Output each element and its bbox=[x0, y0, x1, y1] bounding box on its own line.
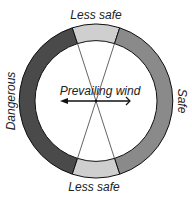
label-dangerous: Dangerous bbox=[4, 72, 18, 131]
label-less-safe-bottom: Less safe bbox=[68, 180, 120, 194]
segment-less-safe-top bbox=[72, 24, 119, 44]
label-safe: Safe bbox=[175, 89, 189, 114]
segment-less-safe-bottom bbox=[72, 158, 119, 178]
label-center: Prevailing wind bbox=[60, 84, 141, 98]
boundary-line bbox=[78, 101, 97, 158]
label-less-safe-top: Less safe bbox=[70, 8, 122, 22]
wind-safety-diagram: Less safe Less safe Prevailing wind Dang… bbox=[0, 0, 192, 198]
boundary-line bbox=[96, 101, 115, 158]
